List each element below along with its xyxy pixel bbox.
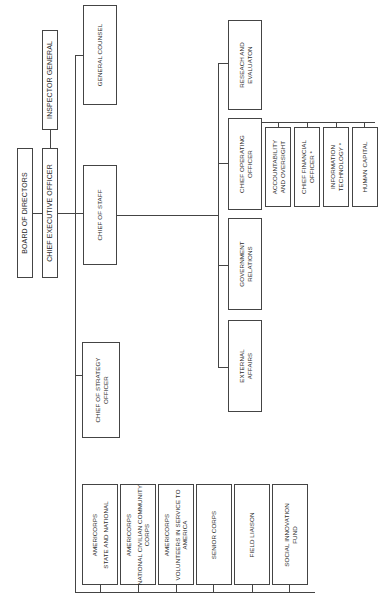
social-innovation-fund-box: SOCIAL INNOVATION FUND [272,484,308,585]
research-evaluation-label: RESEACH AND EVALUATON [238,42,253,87]
cos-branch-spine [218,63,219,368]
chief-strategy-label: CHIEF OF STRATEGY OFFICER [94,357,109,422]
senior-corps-label: SENIOR CORPS [210,510,218,559]
americorps-state-national-box: AMERICORPS STATE AND NATIONAL [82,484,118,585]
chief-strategy-box: CHIEF OF STRATEGY OFFICER [82,342,120,438]
americorps-state-national-label: AMERICORPS STATE AND NATIONAL [89,501,111,568]
chief-of-staff-label: CHIEF OF STAFF [96,189,104,240]
external-affairs-box: EXTERNAL AFFAIRS [228,320,262,412]
information-technology-label: INFORMATION TECHNOLOGY * [329,143,344,192]
government-relations-box: GOVERNMENT RELATIONS [228,218,262,310]
research-connector [218,63,228,64]
external-affairs-label: EXTERNAL AFFAIRS [238,349,253,382]
gc-connector [75,55,83,56]
field-liaison-box: FIELD LIAISON [234,484,270,585]
senior-corps-box: SENIOR CORPS [196,484,232,585]
americorps-vista-box: AMERICORPS VOLUNTEERS IN SERVICE TO AMER… [158,484,194,585]
programs-tick [252,585,253,592]
ceo-label: CHIEF EXECUTIVE OFFICER [46,164,55,262]
govrel-connector [218,265,228,266]
americorps-nccc-box: AMERICORPS NATIONAL CIVILIAN COMMUNITY C… [120,484,156,585]
programs-tick [176,585,177,592]
chief-of-staff-box: CHIEF OF STAFF [83,165,117,265]
programs-tick [138,585,139,592]
americorps-vista-label: AMERICORPS VOLUNTEERS IN SERVICE TO AMER… [163,489,189,580]
ceo-spine-connector [58,213,83,214]
accountability-label: ACCOUNTABILITY AND OVERSIGHT [271,140,286,195]
americorps-nccc-label: AMERICORPS NATIONAL CIVILIAN COMMUNITY C… [125,484,151,584]
coo-label: CHIEF OPERATING OFFICER [238,135,253,193]
general-counsel-box: GENERAL COUNSEL [83,5,117,105]
programs-tick [213,585,214,592]
programs-connector [75,592,315,593]
human-capital-label: HUMAN CAPITAL [361,141,369,192]
human-capital-box: HUMAN CAPITAL [352,127,378,207]
coo-connector [218,163,228,164]
ceo-ig-connector [50,130,51,148]
cos-branch-connector [117,215,218,216]
cfo-label: CHIEF FINANCIAL OFFICER * [300,140,315,194]
field-liaison-label: FIELD LIAISON [248,512,256,557]
extaff-connector [218,367,228,368]
programs-tick [100,585,101,592]
general-counsel-label: GENERAL COUNSEL [96,24,104,86]
board-of-directors-box: BOARD OF DIRECTORS [17,148,33,278]
social-innovation-fund-label: SOCIAL INNOVATION FUND [283,503,298,566]
government-relations-label: GOVERNMENT RELATIONS [238,241,253,286]
main-spine [75,55,76,592]
information-technology-box: INFORMATION TECHNOLOGY * [323,127,349,207]
research-evaluation-box: RESEACH AND EVALUATON [228,20,262,110]
programs-tick [289,585,290,592]
board-ceo-connector [33,213,42,214]
coo-box: CHIEF OPERATING OFFICER [228,118,262,210]
inspector-general-box: INSPECTOR GENERAL [42,30,58,130]
board-of-directors-label: BOARD OF DIRECTORS [21,172,30,253]
cfo-box: CHIEF FINANCIAL OFFICER * [294,127,320,207]
cso-connector [75,375,82,376]
inspector-general-label: INSPECTOR GENERAL [46,41,55,119]
ceo-box: CHIEF EXECUTIVE OFFICER [42,148,58,278]
accountability-box: ACCOUNTABILITY AND OVERSIGHT [265,127,291,207]
